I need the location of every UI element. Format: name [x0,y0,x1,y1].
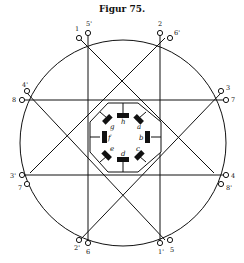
terminal-label-6: 6 [86,248,90,256]
hub-label-b: b [139,134,144,142]
winding-diagram: a b c d e f g h 1 5' 2 6' 3 7 4 8' 5 [0,0,244,263]
terminal-label-5p: 5' [86,20,92,28]
terminal-label-7r: 7 [231,96,235,104]
terminal-label-2: 2 [158,20,162,28]
terminal-label-1p: 1' [158,248,164,256]
hub-label-a: a [137,123,141,131]
terminal-label-8p: 8' [226,184,232,192]
terminal-label-6p: 6' [174,29,180,37]
terminal-label-4: 4 [231,172,235,180]
hub-label-c: c [136,145,140,153]
hub-label-e: e [110,145,114,153]
terminal-label-3p: 3' [10,172,16,180]
terminal-label-3: 3 [226,84,230,92]
hub-label-g: g [110,123,115,131]
terminal-label-1: 1 [75,25,79,33]
terminal-label-7l: 7 [18,184,22,192]
hub-label-d: d [121,150,126,158]
terminal-label-2p: 2' [74,244,80,252]
terminal-label-5: 5 [170,246,174,254]
terminal-label-8: 8 [12,96,16,104]
terminal-label-4p: 4' [22,81,28,89]
hub-label-h: h [121,118,126,126]
